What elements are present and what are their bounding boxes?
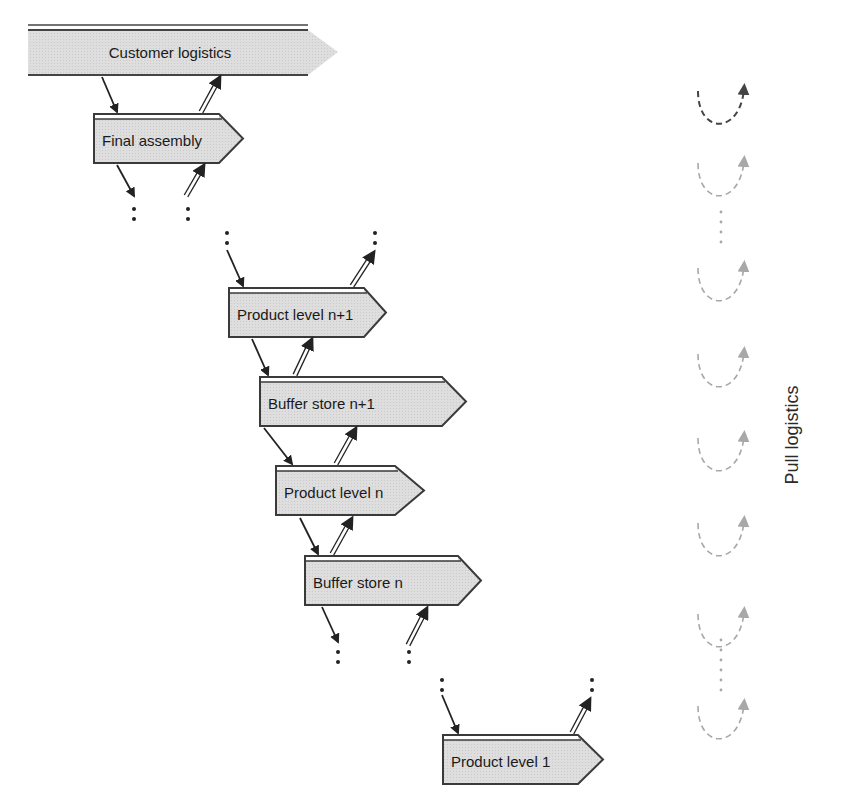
- node-product-level-1: Product level 1: [443, 735, 603, 784]
- pull-loop-arrow: [698, 266, 744, 301]
- material-flow-arrow: [322, 607, 338, 642]
- node-product-level-n: Product level n: [276, 466, 424, 515]
- material-flow-arrow: [442, 695, 458, 733]
- node-label: Product level 1: [451, 753, 550, 770]
- node-product-level-n-plus-1: Product level n+1: [229, 288, 386, 337]
- node-label: Final assembly: [102, 132, 203, 149]
- pull-loop-arrow: [698, 436, 744, 471]
- ellipsis-dots: [336, 650, 340, 664]
- node-label: Product level n+1: [237, 306, 353, 323]
- pull-signal-arrow: [199, 77, 220, 113]
- ellipsis-dots: [186, 207, 190, 221]
- pull-signal-arrow: [570, 699, 590, 734]
- material-flow-arrow: [300, 518, 318, 554]
- pull-signal-arrow: [184, 165, 204, 197]
- material-flow-arrow: [252, 339, 268, 375]
- pull-logistics-label: Pull logistics: [782, 385, 802, 484]
- material-flow-arrow: [117, 165, 134, 196]
- node-buffer-store-n-plus-1: Buffer store n+1: [260, 377, 466, 426]
- ellipsis-dots: [590, 678, 594, 692]
- ellipsis-dots: [225, 231, 229, 245]
- material-flow-arrow: [227, 250, 243, 286]
- pull-loop-arrow: [698, 521, 744, 556]
- customer-logistics-band: Customer logistics: [28, 25, 338, 75]
- pull-signal-arrow: [330, 518, 352, 555]
- material-flow-arrow: [102, 77, 117, 112]
- pull-signal-arrow: [350, 252, 374, 287]
- pull-loop-arrow: [698, 89, 744, 124]
- material-flow-arrow: [264, 428, 292, 464]
- pull-signal-arrow: [406, 608, 427, 646]
- pull-loop-arrow: [698, 704, 744, 739]
- customer-logistics-label: Customer logistics: [109, 44, 232, 61]
- node-label: Product level n: [284, 484, 383, 501]
- pull-loop-arrow: [698, 161, 744, 196]
- ellipsis-dots: [373, 231, 377, 245]
- pull-logistics-diagram: Customer logistics Final assemblyProduct…: [0, 0, 847, 810]
- pull-signal-arrow: [334, 428, 356, 465]
- ellipsis-dots: [132, 207, 136, 221]
- node-buffer-store-n: Buffer store n: [305, 556, 481, 605]
- ellipsis-dots: [440, 678, 444, 692]
- ellipsis-dots: [407, 650, 411, 664]
- node-final-assembly: Final assembly: [94, 114, 243, 163]
- node-label: Buffer store n: [313, 574, 403, 591]
- pull-signal-arrow: [293, 339, 312, 376]
- node-label: Buffer store n+1: [268, 395, 375, 412]
- pull-loop-arrow: [698, 352, 744, 387]
- pull-loop-ellipsis: [720, 211, 723, 244]
- pull-loop-arrow: [698, 612, 744, 647]
